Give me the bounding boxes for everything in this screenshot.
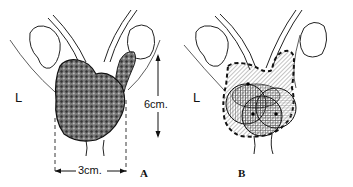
anatomical-diagram (0, 0, 353, 187)
panel-a-side-label: L (15, 90, 22, 105)
panel-b-side-label: L (193, 90, 200, 105)
panel-b-label: B (238, 167, 245, 179)
width-measurement-label: 3cm. (78, 164, 102, 176)
height-measurement-label: 6cm. (144, 98, 168, 110)
panel-a-label: A (140, 167, 148, 179)
panel-a-drawing (10, 10, 161, 174)
panel-b-drawing (184, 10, 327, 154)
